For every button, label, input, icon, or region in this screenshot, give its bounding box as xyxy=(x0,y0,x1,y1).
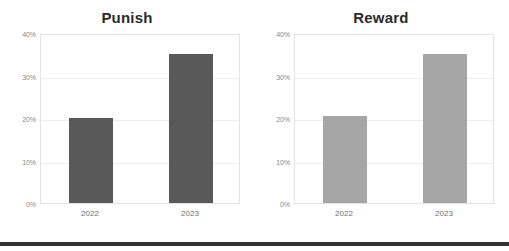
chart-title-reward: Reward xyxy=(254,8,508,28)
y-tick-label: 10% xyxy=(276,158,290,165)
bars-layer-punish xyxy=(41,35,239,203)
x-tick-label: 2022 xyxy=(335,209,353,218)
bottom-divider xyxy=(0,242,509,246)
plot-wrap-punish: 0%10%20%30%40% 20222023 xyxy=(0,34,254,238)
y-axis-reward: 0%10%20%30%40% xyxy=(264,34,292,204)
chart-panel-punish: Punish 0%10%20%30%40% 20222023 xyxy=(0,0,254,238)
y-tick-label: 30% xyxy=(22,73,36,80)
y-tick-label: 0% xyxy=(26,201,36,208)
y-tick-label: 40% xyxy=(22,31,36,38)
y-axis-punish: 0%10%20%30%40% xyxy=(10,34,38,204)
plot-area-punish xyxy=(40,34,240,204)
y-tick-label: 10% xyxy=(22,158,36,165)
plot-wrap-reward: 0%10%20%30%40% 20222023 xyxy=(254,34,508,238)
x-tick-label: 2023 xyxy=(181,209,199,218)
charts-row: Punish 0%10%20%30%40% 20222023 Reward 0%… xyxy=(0,0,509,238)
chart-title-punish: Punish xyxy=(0,8,254,28)
y-tick-label: 30% xyxy=(276,73,290,80)
x-tick-label: 2022 xyxy=(81,209,99,218)
bar-2023 xyxy=(169,54,213,203)
x-axis-reward: 20222023 xyxy=(294,205,494,225)
bar-2023 xyxy=(423,54,467,203)
x-axis-punish: 20222023 xyxy=(40,205,240,225)
bar-2022 xyxy=(323,116,367,203)
plot-area-reward xyxy=(294,34,494,204)
bars-layer-reward xyxy=(295,35,493,203)
y-tick-label: 0% xyxy=(280,201,290,208)
chart-panel-reward: Reward 0%10%20%30%40% 20222023 xyxy=(254,0,508,238)
y-tick-label: 20% xyxy=(276,116,290,123)
bar-2022 xyxy=(69,118,113,203)
x-tick-label: 2023 xyxy=(435,209,453,218)
y-tick-label: 20% xyxy=(22,116,36,123)
y-tick-label: 40% xyxy=(276,31,290,38)
